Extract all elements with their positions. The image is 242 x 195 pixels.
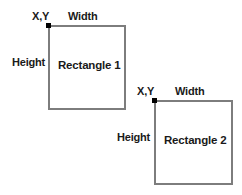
rectangle-2-origin-label: X,Y xyxy=(137,85,154,97)
rectangle-diagram: X,Y Width Height Rectangle 1 X,Y Width H… xyxy=(0,0,242,195)
rectangle-1-origin-marker-icon xyxy=(46,23,51,28)
rectangle-2-origin-marker-icon xyxy=(152,98,157,103)
rectangle-1-height-label: Height xyxy=(12,56,45,68)
rectangle-2-height-label: Height xyxy=(117,131,150,143)
rectangle-2-body-label: Rectangle 2 xyxy=(164,134,226,146)
rectangle-1-body-label: Rectangle 1 xyxy=(58,59,120,71)
rectangle-2-width-label: Width xyxy=(175,85,204,97)
rectangle-1-origin-label: X,Y xyxy=(32,10,49,22)
rectangle-1-width-label: Width xyxy=(68,10,97,22)
